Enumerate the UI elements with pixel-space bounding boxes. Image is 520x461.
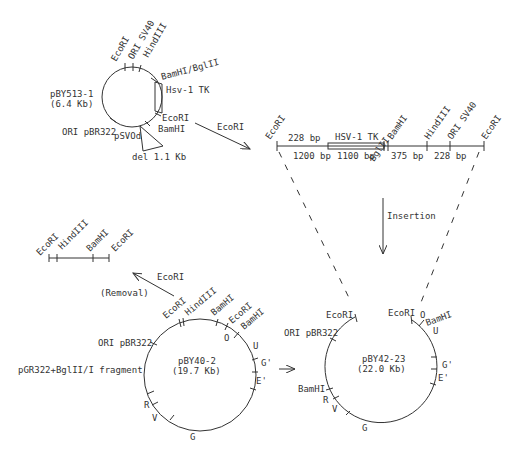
plasmid-2-size: (19.7 Kb) [172,366,221,376]
plasmid-1-name: pBY513-1 [50,89,93,99]
removed-fragment: EcoRI HindIII BamHI EcoRI [34,218,135,262]
p3-site-e-prime: E' [438,373,449,383]
fragment-site-ori-sv40: ORI SV40 [445,100,478,141]
fragment-seg-1100: 1100 bp [337,151,375,161]
site-ecori-top: EcoRI [109,35,131,63]
p3-site-bamhi-top: BamHI [424,309,453,328]
fragment-seg-228: 228 bp [434,151,467,161]
plasmid-construction-diagram: pBY513-1 (6.4 Kb) EcoRI ORI SV40 HindIII… [0,0,520,461]
fragment-seg-1200: 1200 bp [293,151,331,161]
fragment-site-bamhi: BamHI [385,113,409,141]
plasmid-3-name: pBY42-23 [362,354,405,364]
plasmid-3-size: (22.0 Kb) [357,364,406,374]
dashed-guide-right [420,152,479,305]
fragment-site-ecori-right: EcoRI [479,113,503,141]
p2-site-e-prime: E' [256,376,267,386]
p2-site-r: R [144,400,150,410]
arrow-ecori-digest: EcoRI [195,122,250,149]
p2-site-g: G [190,432,195,442]
insertion-label: Insertion [387,211,436,221]
plasmid-1-size: (6.4 Kb) [50,99,93,109]
fragment-seg-375: 375 bp [391,151,424,161]
site-psvod: pSVOd [114,131,141,141]
insertion-arrow: Insertion [383,198,436,254]
site-bamhi: BamHI [158,124,185,134]
fragment-top-228: 228 bp [288,133,321,143]
p3-site-u: U [433,326,438,336]
site-bamhi-bglii: BamHI/BglII [160,57,220,82]
p3-site-g: G [362,423,367,433]
p3-site-bamhi: BamHI [298,384,325,394]
removed-site-bamhi: BamHI [84,227,110,253]
removal-label: (Removal) [100,288,149,298]
p3-site-ecori-left: EcoRI [326,310,353,320]
removal-arrow: EcoRI (Removal) [100,272,184,298]
p3-site-g-prime: G' [442,360,453,370]
fragment-hsv-tk: HSV-1 TK [335,132,379,142]
plasmid-2-name: pBY40-2 [178,356,216,366]
arrow-1-label: EcoRI [217,122,244,132]
linear-fragment: EcoRI BamHI BglII HindIII ORI SV40 EcoRI… [263,100,503,163]
removed-site-ecori-2: EcoRI [109,227,135,253]
dashed-guide-left [279,152,350,300]
p2-site-v: V [152,413,158,423]
plasmid-pby42-23: pBY42-23 (22.0 Kb) EcoRI EcoRI O BamHI O… [284,308,453,433]
p2-site-u: U [253,341,258,351]
p3-site-ecori-right: EcoRI [388,308,415,318]
site-ecori-right: EcoRI [162,113,189,123]
site-hsv-tk: Hsv-1 TK [166,85,210,95]
arrow-2-label: EcoRI [157,272,184,282]
deletion-label: del 1.1 Kb [132,152,186,162]
p3-site-v: V [332,404,338,414]
site-ori-pbr322: ORI pBR322 [62,127,116,137]
plasmid-2-left-label: pGR322+BglII/I fragment [18,365,143,375]
fragment-site-ecori-left: EcoRI [263,113,287,141]
p2-site-o: O [224,333,229,343]
p3-site-ori-pbr322: ORI pBR322 [284,328,338,338]
p2-site-ori-pbr322: ORI pBR322 [98,338,152,348]
plasmid-pby40-2: pBY40-2 (19.7 Kb) pGR322+BglII/I fragmen… [18,285,272,442]
p3-site-r: R [323,395,329,405]
p2-site-g-prime: G' [261,358,272,368]
plasmid-pby513-1: pBY513-1 (6.4 Kb) EcoRI ORI SV40 HindIII… [50,18,220,162]
